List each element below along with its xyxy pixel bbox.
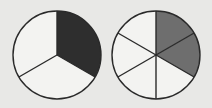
fraction-diagram [0, 0, 212, 108]
thirds-circle [13, 11, 101, 99]
sixths-circle [112, 11, 200, 99]
